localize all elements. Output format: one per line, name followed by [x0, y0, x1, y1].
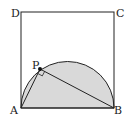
label-c: C	[116, 7, 124, 20]
label-d: D	[11, 7, 20, 20]
label-a: A	[9, 104, 19, 117]
label-b: B	[114, 104, 122, 117]
label-p: P	[32, 59, 40, 72]
geometry-diagram: D C A B P	[0, 0, 128, 123]
